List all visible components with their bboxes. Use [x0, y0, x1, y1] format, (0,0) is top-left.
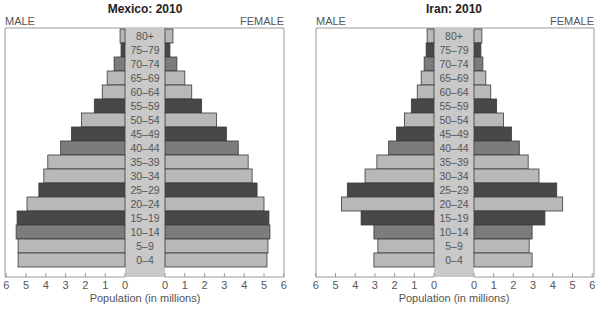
age-group-label: 50–54 — [439, 114, 468, 126]
male-bar-40–44 — [61, 141, 125, 155]
female-bar-55–59 — [474, 99, 497, 113]
age-group-label: 80+ — [136, 30, 154, 42]
female-bar-60–64 — [474, 85, 491, 99]
age-group-label: 70–74 — [130, 58, 159, 70]
male-bar-70–74 — [114, 57, 125, 71]
male-bar-60–64 — [102, 85, 125, 99]
male-bar-60–64 — [417, 85, 434, 99]
female-tick-label: 5 — [261, 279, 267, 291]
male-bar-20–24 — [27, 197, 125, 211]
female-bar-20–24 — [474, 197, 563, 211]
age-group-label: 5–9 — [445, 240, 463, 252]
female-tick-label: 4 — [550, 279, 556, 291]
male-tick-label: 2 — [82, 279, 88, 291]
male-bar-35–39 — [377, 155, 434, 169]
male-bar-15–19 — [17, 211, 125, 225]
female-tick-label: 2 — [202, 279, 208, 291]
female-bar-40–44 — [165, 141, 238, 155]
age-group-label: 0–4 — [136, 254, 154, 266]
male-bar-50–54 — [81, 113, 125, 127]
age-group-label: 55–59 — [439, 100, 468, 112]
male-bar-15–19 — [361, 211, 434, 225]
male-bar-55–59 — [94, 99, 125, 113]
female-bar-70–74 — [474, 57, 483, 71]
male-bar-75–79 — [426, 43, 434, 57]
age-group-label: 25–29 — [439, 184, 468, 196]
male-bar-10–14 — [374, 225, 434, 239]
population-pyramids-figure: Mexico: 2010MALEFEMALE80+75–7970–7465–69… — [0, 0, 598, 326]
female-bar-80+ — [165, 29, 173, 43]
male-bar-80+ — [120, 29, 125, 43]
female-bar-5–9 — [165, 239, 268, 253]
female-bar-65–69 — [474, 71, 486, 85]
male-bar-5–9 — [378, 239, 434, 253]
age-group-label: 55–59 — [130, 100, 159, 112]
age-group-label: 50–54 — [130, 114, 159, 126]
female-bar-45–49 — [165, 127, 226, 141]
male-bar-50–54 — [404, 113, 434, 127]
age-group-label: 15–19 — [130, 212, 159, 224]
male-bar-35–39 — [48, 155, 125, 169]
female-tick-label: 0 — [471, 279, 477, 291]
female-bar-35–39 — [474, 155, 528, 169]
female-bar-80+ — [474, 29, 482, 43]
female-bar-10–14 — [474, 225, 532, 239]
female-bar-55–59 — [165, 99, 202, 113]
female-bar-25–29 — [165, 183, 257, 197]
male-bar-40–44 — [389, 141, 434, 155]
age-group-label: 0–4 — [445, 254, 463, 266]
age-group-label: 30–34 — [439, 170, 468, 182]
age-group-label: 25–29 — [130, 184, 159, 196]
male-tick-label: 1 — [411, 279, 417, 291]
female-tick-label: 1 — [491, 279, 497, 291]
female-bar-15–19 — [474, 211, 545, 225]
male-bar-70–74 — [424, 57, 434, 71]
female-tick-label: 6 — [281, 279, 287, 291]
female-bar-15–19 — [165, 211, 269, 225]
female-bar-50–54 — [474, 113, 504, 127]
age-group-label: 65–69 — [130, 72, 159, 84]
male-tick-label: 3 — [372, 279, 378, 291]
chart-title: Mexico: 2010 — [108, 2, 183, 16]
male-bar-65–69 — [421, 71, 434, 85]
age-group-label: 20–24 — [130, 198, 159, 210]
male-label: MALE — [316, 15, 346, 27]
age-group-label: 40–44 — [130, 142, 159, 154]
male-bar-5–9 — [18, 239, 125, 253]
x-axis-title: Population (in millions) — [399, 292, 510, 304]
female-bar-5–9 — [474, 239, 529, 253]
female-bar-20–24 — [165, 197, 264, 211]
female-bar-0–4 — [165, 253, 267, 267]
male-tick-label: 5 — [23, 279, 29, 291]
pyramid-panel-1: Iran: 2010MALEFEMALE80+75–7970–7465–6960… — [313, 2, 596, 304]
male-bar-30–34 — [365, 169, 434, 183]
female-tick-label: 5 — [569, 279, 575, 291]
x-axis-title: Population (in millions) — [90, 292, 201, 304]
female-tick-label: 3 — [530, 279, 536, 291]
female-bar-75–79 — [165, 43, 170, 57]
age-group-label: 75–79 — [130, 44, 159, 56]
male-bar-45–49 — [72, 127, 125, 141]
age-group-label: 60–64 — [130, 86, 159, 98]
male-tick-label: 2 — [392, 279, 398, 291]
age-group-label: 35–39 — [439, 156, 468, 168]
male-bar-25–29 — [39, 183, 125, 197]
male-bar-0–4 — [18, 253, 125, 267]
female-bar-40–44 — [474, 141, 519, 155]
female-tick-label: 3 — [221, 279, 227, 291]
female-tick-label: 2 — [510, 279, 516, 291]
female-tick-label: 1 — [182, 279, 188, 291]
male-bar-75–79 — [121, 43, 125, 57]
female-bar-70–74 — [165, 57, 177, 71]
male-bar-65–69 — [107, 71, 125, 85]
age-group-label: 65–69 — [439, 72, 468, 84]
age-group-label: 35–39 — [130, 156, 159, 168]
age-group-label: 60–64 — [439, 86, 468, 98]
female-bar-60–64 — [165, 85, 192, 99]
pyramid-panel-0: Mexico: 2010MALEFEMALE80+75–7970–7465–69… — [3, 2, 287, 304]
chart-title: Iran: 2010 — [426, 2, 482, 16]
female-tick-label: 6 — [589, 279, 595, 291]
female-label: FEMALE — [550, 15, 594, 27]
age-group-label: 5–9 — [136, 240, 154, 252]
male-tick-label: 0 — [122, 279, 128, 291]
